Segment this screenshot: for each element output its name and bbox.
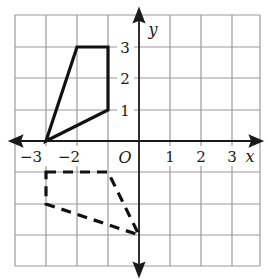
axes: [10, 9, 262, 276]
x-tick-label-neg2: −2: [58, 148, 80, 166]
x-tick-label-2: 2: [196, 148, 206, 166]
x-tick-label-3: 3: [227, 148, 237, 166]
x-tick-label-1: 1: [165, 148, 175, 166]
y-axis-label: y: [147, 20, 158, 39]
x-axis-label: x: [245, 147, 254, 166]
y-tick-label-3: 3: [120, 39, 130, 57]
y-axis-down-arrow-icon: [134, 263, 144, 276]
x-tick-label-neg3: −3: [20, 148, 42, 166]
x-axis-left-arrow-icon: [10, 136, 22, 146]
origin-label: O: [118, 148, 131, 167]
y-tick-label-1: 1: [120, 102, 130, 120]
coordinate-grid-diagram: −3 −2 O 1 2 3 x 3 2 1 y: [0, 0, 268, 280]
y-tick-label-2: 2: [120, 70, 130, 88]
